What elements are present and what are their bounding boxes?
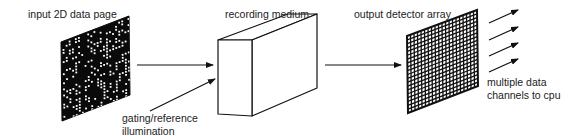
label-channels-line1: multiple data <box>487 76 547 89</box>
label-channels-line2: channels to cpu <box>487 89 561 102</box>
channel-arrow-3 <box>489 43 518 56</box>
channel-arrow-1 <box>489 10 518 23</box>
label-output-detector: output detector array <box>354 8 451 21</box>
recording-medium-box <box>218 14 317 116</box>
channel-arrow-2 <box>489 27 518 40</box>
label-gating-line1: gating/reference <box>122 112 198 125</box>
input-data-page <box>61 16 130 121</box>
cpu-channel-arrows <box>489 10 518 72</box>
output-detector-array <box>407 10 478 113</box>
arrow-gating-illumination <box>150 79 215 111</box>
label-input-page: input 2D data page <box>28 8 117 21</box>
label-recording-medium: recording medium <box>225 8 309 21</box>
channel-arrow-4 <box>489 59 518 72</box>
label-gating-line2: illumination <box>122 125 175 136</box>
diagram-canvas: input 2D data page recording medium outp… <box>0 0 578 136</box>
